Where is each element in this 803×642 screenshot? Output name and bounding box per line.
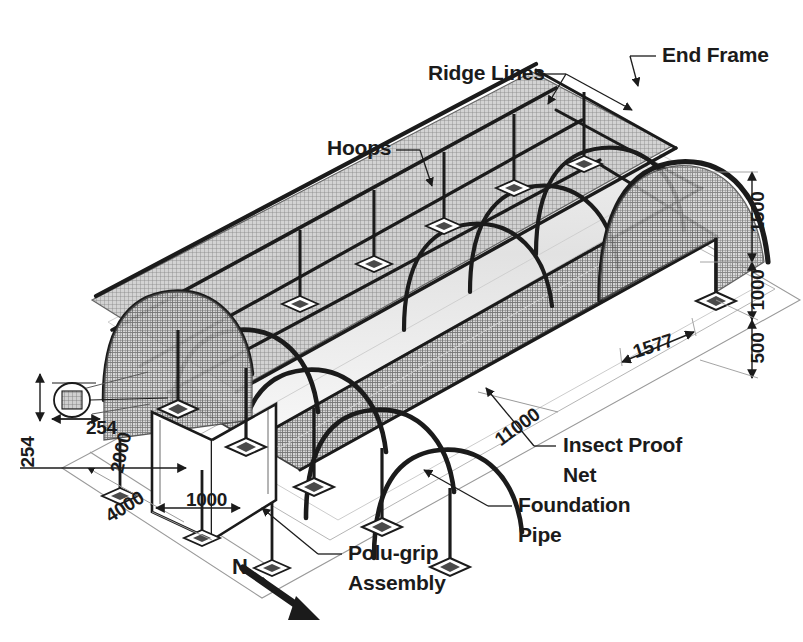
drawing-canvas: Ridge Lines End Frame Hoops Insect Proof… (0, 0, 803, 642)
dim-1500: 1500 (747, 191, 768, 232)
label-ridge-lines: Ridge Lines (428, 61, 545, 84)
label-insect-proof: Insect Proof (563, 433, 683, 456)
label-hoops: Hoops (327, 136, 391, 159)
dim-1000-door: 1000 (186, 489, 227, 510)
label-net: Net (563, 463, 596, 486)
label-end-frame: End Frame (662, 43, 769, 66)
north-letter: N (232, 554, 248, 579)
dim-1000-right: 1000 (747, 269, 768, 310)
label-pipe: Pipe (518, 523, 562, 546)
label-foundation: Foundation (518, 493, 630, 516)
greenhouse-isometric-svg: Ridge Lines End Frame Hoops Insect Proof… (0, 0, 803, 642)
label-assembly: Assembly (348, 571, 446, 594)
north-arrow (243, 568, 320, 620)
dim-500: 500 (747, 333, 768, 364)
dim-254-vertical: 254 (17, 436, 38, 468)
label-polu-grip: Polu-grip (348, 541, 438, 564)
